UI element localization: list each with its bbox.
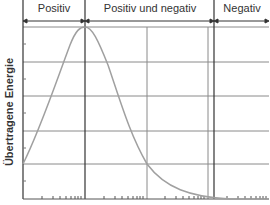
region-label-positive-negative: Positiv und negativ [104, 2, 197, 14]
region-label-positive: Positiv [38, 2, 71, 14]
region-boundaries [23, 0, 214, 199]
region-arrows [23, 19, 269, 23]
energy-transfer-diagram: Positiv Positiv und negativ Negativ [0, 0, 270, 205]
horizontal-gridlines [23, 27, 269, 164]
energy-curve [23, 27, 269, 199]
region-label-negative: Negativ [223, 2, 261, 14]
y-axis-label: Übertragene Energie [3, 58, 15, 166]
vertical-gridlines [147, 27, 208, 199]
